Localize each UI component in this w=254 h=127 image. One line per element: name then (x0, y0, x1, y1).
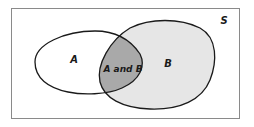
universe-label: S (220, 15, 227, 26)
set-b-label: B (164, 58, 172, 69)
set-a-label: A (69, 54, 78, 65)
venn-diagram: S A B A and B (0, 0, 254, 127)
intersection-label: A and B (102, 64, 142, 74)
